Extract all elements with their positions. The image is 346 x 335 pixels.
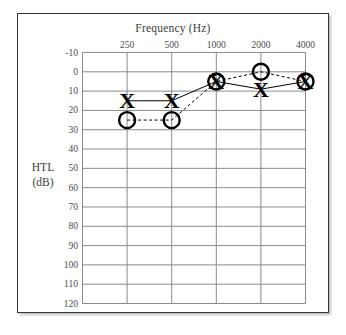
plot-area: XXXXX — [0, 0, 346, 335]
marker-x-250: X — [119, 88, 135, 113]
audiogram-chart: Frequency (Hz) HTL (dB) 2505001000200040… — [0, 0, 346, 335]
marker-x-500: X — [164, 88, 180, 113]
gridlines — [83, 53, 306, 304]
